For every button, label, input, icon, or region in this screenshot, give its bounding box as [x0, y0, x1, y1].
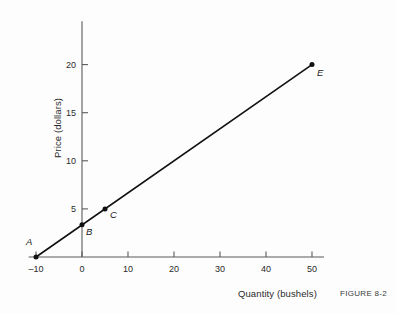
data-point-label: A — [26, 236, 32, 247]
data-point-marker — [80, 222, 85, 227]
y-tick-label: 10 — [60, 156, 76, 166]
series-line — [36, 65, 312, 257]
x-tick-label: 20 — [169, 264, 179, 274]
x-tick-label: 30 — [215, 264, 225, 274]
data-point-marker — [34, 255, 39, 260]
y-tick-label: 15 — [60, 108, 76, 118]
y-tick-label: 20 — [60, 60, 76, 70]
data-point-marker — [103, 206, 108, 211]
y-axis-title: Price (dollars) — [52, 18, 63, 158]
x-tick-label: –10 — [28, 264, 43, 274]
data-point-label: E — [317, 67, 323, 78]
data-point-label: C — [110, 209, 117, 220]
figure-caption: FIGURE 8-2 — [340, 289, 387, 298]
x-tick-label: 50 — [307, 264, 317, 274]
x-tick-label: 10 — [123, 264, 133, 274]
x-tick-label: 40 — [261, 264, 271, 274]
y-tick-label: 5 — [60, 204, 76, 214]
figure-container: Price (dollars) Quantity (bushels) FIGUR… — [0, 0, 396, 314]
data-point-marker — [310, 62, 315, 67]
x-axis-title: Quantity (bushels) — [238, 288, 317, 299]
x-tick-label: 0 — [79, 264, 84, 274]
data-point-label: B — [86, 226, 92, 237]
